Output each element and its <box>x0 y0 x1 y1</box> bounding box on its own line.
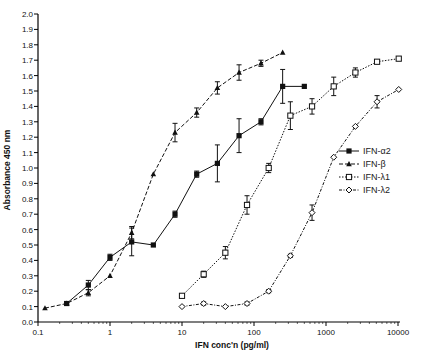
data-point <box>288 113 293 118</box>
data-point <box>374 99 380 105</box>
legend-marker-icon <box>346 187 352 193</box>
y-tick-label: 1.6 <box>22 72 34 81</box>
data-point <box>331 84 336 89</box>
x-tick-label: 1 <box>108 328 113 337</box>
data-point <box>179 293 184 298</box>
data-point <box>280 50 286 55</box>
data-point <box>244 202 249 207</box>
data-point <box>201 272 206 277</box>
data-point <box>302 84 307 89</box>
data-point <box>353 70 358 75</box>
x-axis-title: IFN conc'n (pg/ml) <box>195 340 269 350</box>
y-tick-label: 0.0 <box>22 318 34 327</box>
data-point <box>129 239 134 244</box>
data-point <box>222 304 228 310</box>
y-tick-label: 0.9 <box>22 179 34 188</box>
x-tick-label: 100 <box>247 328 261 337</box>
y-tick-label: 1.3 <box>22 118 34 127</box>
data-point <box>179 304 185 310</box>
x-tick-label: 0.1 <box>32 328 44 337</box>
y-tick-label: 2.0 <box>22 10 34 19</box>
data-point <box>244 301 250 307</box>
y-tick-label: 0.3 <box>22 272 34 281</box>
data-point <box>280 84 285 89</box>
x-tick-label: 10 <box>178 328 187 337</box>
data-point <box>86 290 92 295</box>
x-tick-label: 1000 <box>317 328 335 337</box>
y-axis-title: Absorbance 450 nm <box>2 129 12 210</box>
series-line <box>45 53 283 309</box>
data-point <box>374 59 379 64</box>
y-tick-label: 1.8 <box>22 41 34 50</box>
data-point <box>215 161 220 166</box>
legend-label: IFN-λ2 <box>363 185 390 195</box>
legend-label: IFN-λ1 <box>363 172 390 182</box>
x-tick-label: 10000 <box>387 328 410 337</box>
data-point <box>266 288 272 294</box>
data-point <box>309 210 315 216</box>
data-point <box>215 85 221 90</box>
series-ifn- <box>42 50 285 311</box>
legend-marker-icon <box>346 174 351 179</box>
y-tick-label: 0.8 <box>22 195 34 204</box>
data-point <box>331 154 337 160</box>
legend-item: IFN-β <box>339 159 386 169</box>
data-point <box>309 104 314 109</box>
data-point <box>194 172 199 177</box>
legend-item: IFN-λ2 <box>339 185 390 195</box>
data-point <box>194 110 200 115</box>
data-point <box>201 301 207 307</box>
y-tick-label: 0.5 <box>22 241 34 250</box>
data-point <box>129 230 135 235</box>
data-point <box>396 86 402 92</box>
legend-label: IFN-β <box>363 159 386 169</box>
data-point <box>287 253 293 259</box>
y-tick-label: 1.7 <box>22 56 34 65</box>
y-tick-label: 0.2 <box>22 287 34 296</box>
data-point <box>151 242 156 247</box>
legend-item: IFN-α2 <box>339 146 391 156</box>
legend-item: IFN-λ1 <box>339 172 390 182</box>
data-point <box>107 273 113 278</box>
y-tick-label: 1.0 <box>22 164 34 173</box>
y-tick-label: 1.5 <box>22 87 34 96</box>
series-ifn-2 <box>64 69 307 306</box>
y-tick-label: 1.2 <box>22 133 34 142</box>
axes: 0.00.10.20.30.40.50.60.70.80.91.01.11.21… <box>22 10 410 337</box>
data-point <box>236 133 241 138</box>
data-point <box>86 282 91 287</box>
data-point <box>396 56 401 61</box>
y-tick-label: 0.6 <box>22 226 34 235</box>
data-point <box>266 165 271 170</box>
y-tick-label: 1.9 <box>22 25 34 34</box>
data-point <box>151 171 157 176</box>
series-line <box>67 86 305 303</box>
legend: IFN-α2IFN-βIFN-λ1IFN-λ2 <box>339 146 391 195</box>
data-point <box>258 119 263 124</box>
data-point <box>107 255 112 260</box>
y-tick-label: 1.1 <box>22 149 34 158</box>
dose-response-chart: 0.00.10.20.30.40.50.60.70.80.91.01.11.21… <box>0 0 439 357</box>
y-tick-label: 0.7 <box>22 210 34 219</box>
legend-label: IFN-α2 <box>363 146 391 156</box>
data-point <box>172 212 177 217</box>
y-tick-label: 0.1 <box>22 303 34 312</box>
y-tick-label: 1.4 <box>22 102 34 111</box>
legend-marker-icon <box>346 148 351 153</box>
y-tick-label: 0.4 <box>22 256 34 265</box>
data-point <box>258 60 264 65</box>
data-point <box>223 250 228 255</box>
